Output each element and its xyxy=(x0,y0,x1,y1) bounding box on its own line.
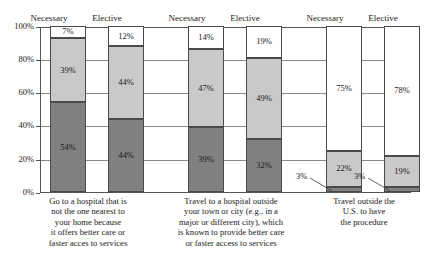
y-axis-tick-100: 100% xyxy=(0,22,34,31)
segment-value-label: 47% xyxy=(198,84,214,93)
y-axis-tick-80: 80% xyxy=(0,55,34,64)
y-axis-tick-20: 20% xyxy=(0,155,34,164)
callout-group3-necessary-3pct: 3% xyxy=(296,172,307,181)
segment-group2-elective-bottom[interactable]: 32% xyxy=(246,139,282,192)
segment-value-label: 19% xyxy=(394,167,410,176)
caption-line: Travel outside the xyxy=(307,196,421,206)
segment-group1-necessary-middle[interactable]: 39% xyxy=(50,38,86,103)
segment-value-label: 75% xyxy=(336,84,352,93)
bar-header-group3-elective: Elective xyxy=(355,13,411,23)
segment-value-label: 44% xyxy=(118,78,134,87)
bar-group1-necessary[interactable]: 54% 39% 7% xyxy=(50,26,86,192)
category-caption-group2: Travel to a hospital outside your town o… xyxy=(155,196,307,248)
category-caption-group1: Go to a hospital that is not the one nea… xyxy=(24,196,152,248)
caption-line: faster acces to services xyxy=(24,238,152,248)
y-axis-tick-60: 60% xyxy=(0,88,34,97)
segment-value-label: 49% xyxy=(256,94,272,103)
segment-value-label: 54% xyxy=(60,143,76,152)
leader-line-group3-necessary xyxy=(310,178,338,194)
segment-value-label: 39% xyxy=(60,66,76,75)
caption-line: Go to a hospital that is xyxy=(24,196,152,206)
bar-header-group1-elective: Elective xyxy=(79,13,135,23)
segment-value-label: 19% xyxy=(256,37,272,46)
bar-group3-elective[interactable]: 19% 78% xyxy=(384,26,420,192)
segment-group1-elective-bottom[interactable]: 44% xyxy=(108,119,144,192)
caption-line: or faster access to services xyxy=(155,238,307,248)
stacked-bar-chart: 100% 80% 60% 40% 20% 0% Necessary Electi… xyxy=(0,0,437,260)
segment-value-label: 78% xyxy=(394,86,410,95)
caption-line: major or different city), which xyxy=(155,217,307,227)
y-axis-tick-40: 40% xyxy=(0,121,34,130)
segment-group3-elective-top[interactable]: 78% xyxy=(384,26,420,156)
category-caption-group3: Travel outside the U.S. to have the proc… xyxy=(307,196,421,227)
segment-value-label: 44% xyxy=(118,151,134,160)
bar-group2-elective[interactable]: 32% 49% 19% xyxy=(246,26,282,192)
segment-group1-elective-top[interactable]: 12% xyxy=(108,26,144,46)
bar-header-group2-necessary: Necessary xyxy=(159,13,215,23)
segment-group1-necessary-top[interactable]: 7% xyxy=(50,26,86,38)
caption-line: your town or city (e.g., in a xyxy=(155,206,307,216)
leader-line-group3-elective xyxy=(368,178,396,194)
segment-value-label: 22% xyxy=(336,164,352,173)
plot-area: 54% 39% 7% 44% 44% 12% 39% xyxy=(40,27,411,193)
segment-group1-necessary-bottom[interactable]: 54% xyxy=(50,102,86,192)
caption-line: is known to provide better care xyxy=(155,227,307,237)
caption-line: U.S. to have xyxy=(307,206,421,216)
segment-value-label: 7% xyxy=(62,27,73,36)
bar-group1-elective[interactable]: 44% 44% 12% xyxy=(108,26,144,192)
caption-line: the procedure xyxy=(307,217,421,227)
segment-value-label: 14% xyxy=(198,33,214,42)
bar-header-group3-necessary: Necessary xyxy=(297,13,353,23)
segment-group2-necessary-top[interactable]: 14% xyxy=(188,26,224,49)
segment-group2-necessary-bottom[interactable]: 39% xyxy=(188,127,224,192)
caption-line: it offers better care or xyxy=(24,227,152,237)
caption-line: your home because xyxy=(24,217,152,227)
segment-group2-elective-middle[interactable]: 49% xyxy=(246,58,282,139)
bar-group3-necessary[interactable]: 22% 75% xyxy=(326,26,362,192)
bar-header-group2-elective: Elective xyxy=(217,13,273,23)
bar-header-group1-necessary: Necessary xyxy=(21,13,77,23)
y-axis-tickmark-0 xyxy=(36,193,40,194)
segment-group1-elective-middle[interactable]: 44% xyxy=(108,46,144,119)
segment-group2-necessary-middle[interactable]: 47% xyxy=(188,49,224,127)
caption-line: Travel to a hospital outside xyxy=(155,196,307,206)
segment-value-label: 39% xyxy=(198,155,214,164)
segment-value-label: 12% xyxy=(118,32,134,41)
segment-group3-necessary-top[interactable]: 75% xyxy=(326,26,362,151)
caption-line: not the one nearest to xyxy=(24,206,152,216)
callout-group3-elective-3pct: 3% xyxy=(354,172,365,181)
segment-value-label: 32% xyxy=(256,161,272,170)
segment-group2-elective-top[interactable]: 19% xyxy=(246,26,282,58)
bar-group2-necessary[interactable]: 39% 47% 14% xyxy=(188,26,224,192)
